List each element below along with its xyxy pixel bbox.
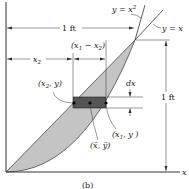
- width-label: 1 ft: [62, 24, 77, 33]
- parabola-label: y = x2: [111, 4, 137, 14]
- area-between-curves-figure: x y = x2 y = x 1 ft x2 (x1 − x2) dx: [0, 0, 189, 189]
- height-label: 1 ft: [161, 93, 176, 102]
- shaded-region: [6, 40, 135, 172]
- x-axis-label: x: [182, 168, 187, 177]
- point-x2-y: [72, 101, 75, 104]
- point-label-x1-y: (x1, y ): [112, 130, 138, 140]
- diff-label: (x1 − x2): [71, 41, 105, 51]
- parabola-leader: [131, 14, 141, 18]
- point-x1-y: [104, 101, 107, 104]
- line-leader: [153, 24, 161, 28]
- point-label-x2-y: (x2, y): [38, 79, 62, 89]
- leader-x1-y: [106, 105, 116, 129]
- figure-caption: (b): [82, 181, 93, 189]
- line-label: y = x: [161, 24, 183, 33]
- centroid-label: (x̄, ȳ): [90, 141, 110, 150]
- arrowhead-left: [7, 27, 12, 30]
- leader-x2-y: [53, 92, 72, 103]
- point-centroid: [88, 101, 91, 104]
- arrowhead-right: [129, 27, 134, 30]
- dx-label: dx: [126, 79, 136, 88]
